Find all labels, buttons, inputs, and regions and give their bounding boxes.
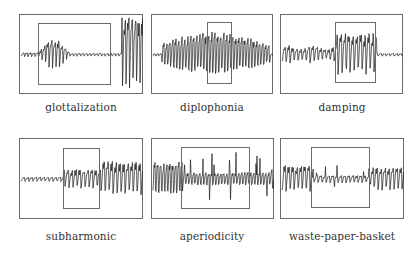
- highlight-box-aperiodicity: [181, 147, 250, 209]
- label-damping: damping: [277, 101, 407, 113]
- highlight-box-damping: [335, 22, 376, 83]
- highlight-box-subharmonic: [63, 148, 100, 209]
- highlight-box-diplophonia: [207, 22, 232, 84]
- highlight-box-glottalization: [38, 23, 111, 85]
- label-aperiodicity: aperiodicity: [147, 230, 277, 242]
- highlight-box-waste-paper-basket: [311, 147, 370, 208]
- label-glottalization: glottalization: [16, 101, 146, 113]
- label-diplophonia: diplophonia: [147, 101, 277, 113]
- label-subharmonic: subharmonic: [16, 230, 146, 242]
- label-waste-paper-basket: waste-paper-basket: [277, 230, 407, 242]
